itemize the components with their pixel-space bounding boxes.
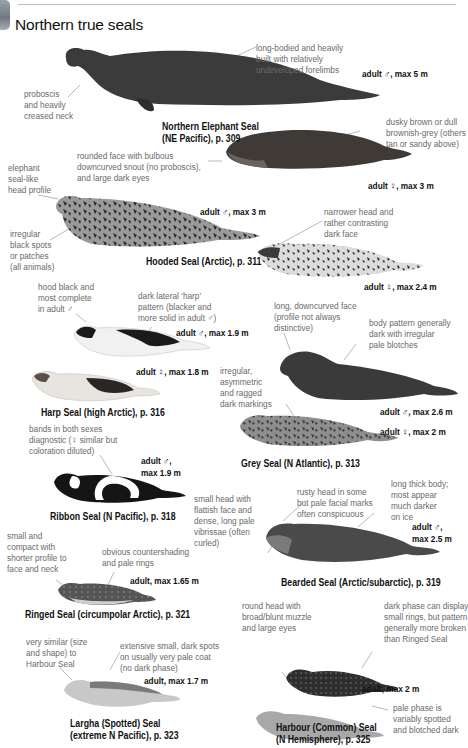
note-elephant-colour: dusky brown or dull brownish-grey (other… xyxy=(386,116,466,149)
size-grey-female: adult ♀, max 2 m xyxy=(380,426,446,438)
note-grey-face: long, downcurved face (profile not alway… xyxy=(274,300,357,333)
size-ringed: adult, max 1.65 m xyxy=(130,575,199,587)
size-hooded-female: adult ♀, max 2.4 m xyxy=(364,281,437,293)
caption-largha-seal-line2: (extreme N Pacific), p. 323 xyxy=(70,730,179,742)
note-ringed-profile: small and compact with shorter profile t… xyxy=(7,530,67,574)
size-hooded-male: adult ♂, max 3 m xyxy=(200,206,266,218)
size-bearded-male: adult ♂, max 2.5 m xyxy=(412,521,452,544)
caption-bearded-seal: Bearded Seal (Arctic/subarctic), p. 319 xyxy=(281,577,441,589)
size-grey-male: adult ♂, max 2.6 m xyxy=(380,406,453,418)
section-title: Northern true seals xyxy=(15,16,143,34)
caption-ringed-seal: Ringed Seal (circumpolar Arctic), p. 321 xyxy=(25,609,190,621)
size-harp-female: adult ♀, max 1.8 m xyxy=(136,366,209,378)
caption-harbour-seal-line2: (N Hemisphere), p. 325 xyxy=(276,734,370,746)
note-harbour-head: round head with broad/blunt muzzle and l… xyxy=(242,600,312,633)
note-harp-hood: hood black and most complete in adult ♂ xyxy=(38,281,94,314)
caption-grey-seal: Grey Seal (N Atlantic), p. 313 xyxy=(241,458,360,470)
caption-harbour-seal-line1: Harbour (Common) Seal xyxy=(276,722,377,734)
size-elephant-female: adult ♀, max 3 m xyxy=(368,180,434,192)
size-elephant-male: adult ♂, max 5 m xyxy=(362,68,428,80)
note-bearded-body: long thick body; most appear much darker… xyxy=(391,478,448,522)
note-bearded-rusty: rusty head in some but pale facial marks… xyxy=(297,486,373,519)
note-bearded-head: small head with flattish face and dense,… xyxy=(194,493,255,548)
caption-hooded-seal: Hooded Seal (Arctic), p. 311 xyxy=(146,256,261,268)
caption-northern-elephant-seal-line1: Northern Elephant Seal xyxy=(162,121,259,133)
note-hooded-female-face: narrower head and rather contrasting dar… xyxy=(324,206,393,239)
caption-ribbon-seal: Ribbon Seal (N Pacific), p. 318 xyxy=(50,511,176,523)
size-harbour: adult, max 2 m xyxy=(362,683,419,695)
note-ringed-countershading: obvious countershading and pale rings xyxy=(102,546,189,568)
size-harp-male: adult ♂, max 1.9 m xyxy=(176,327,249,339)
note-elephant-female-face: rounded face with bulbous downcurved sno… xyxy=(77,150,201,183)
page-tab-thumbnail xyxy=(0,0,10,30)
hooded-seal-female-illustration xyxy=(256,240,426,280)
header-rule xyxy=(18,4,456,5)
grey-seal-male-illustration xyxy=(278,348,460,404)
note-hooded-spots: irregular black spots or patches (all an… xyxy=(10,228,54,272)
note-largha-spots: extensive small, dark spots on usually v… xyxy=(120,640,219,673)
caption-harp-seal: Harp Seal (high Arctic), p. 316 xyxy=(41,407,165,419)
note-elephant-body: long-bodied and heavily built with relat… xyxy=(256,42,343,75)
note-largha-similar: very similar (size and shape) to Harbour… xyxy=(26,636,87,669)
size-largha: adult, max 1.7 m xyxy=(144,675,208,687)
note-grey-female-markings: irregular, asymmetric and ragged dark ma… xyxy=(220,365,272,409)
note-grey-body: body pattern generally dark with irregul… xyxy=(369,317,451,350)
note-ribbon-bands: bands in both sexes diagnostic (♀ simila… xyxy=(29,423,117,456)
note-harbour-pale-phase: pale phase is variably spotted and blotc… xyxy=(393,702,459,735)
note-hooded-head: elephant seal-like head profile xyxy=(8,162,51,195)
note-elephant-proboscis: proboscis and heavily creased neck xyxy=(24,88,73,121)
note-harp-pattern: dark lateral ‘harp’ pattern (blacker and… xyxy=(138,290,216,323)
caption-northern-elephant-seal-line2: (NE Pacific), p. 309 xyxy=(162,133,240,145)
hooded-seal-male-illustration xyxy=(52,192,262,252)
size-ribbon-male: adult ♂, max 1.9 m xyxy=(141,455,181,478)
note-harbour-dark-phase: dark phase can display small rings, but … xyxy=(384,600,468,644)
caption-largha-seal-line1: Largha (Spotted) Seal xyxy=(70,718,161,730)
grey-seal-female-illustration xyxy=(238,412,400,448)
